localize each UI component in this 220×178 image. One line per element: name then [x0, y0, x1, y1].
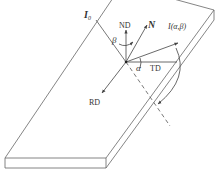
incident-beam	[96, 20, 170, 126]
td-label: TD	[150, 64, 161, 73]
reflected-arrow	[126, 43, 178, 62]
rd-label: RD	[89, 98, 100, 107]
reflected-label: I(α,β)	[167, 22, 187, 31]
beta-label: β	[111, 35, 117, 45]
plate-top-right-edge	[106, 10, 214, 158]
incident-label: I0	[83, 9, 91, 21]
n-arrow	[126, 25, 147, 62]
n-label: N	[147, 19, 156, 30]
plate-front-face	[5, 158, 106, 168]
alpha-label: α	[136, 63, 141, 73]
plate-top-left-edge	[5, 0, 113, 158]
plate-side-face	[106, 10, 214, 168]
origin-point	[125, 61, 128, 64]
rd-arrow	[102, 62, 126, 93]
rotation-arc	[158, 48, 180, 104]
plate-diagram: I0 ND N β I(α,β) α TD RD	[0, 0, 220, 178]
nd-label: ND	[119, 21, 131, 30]
plate-top-back-edge	[170, 0, 214, 10]
